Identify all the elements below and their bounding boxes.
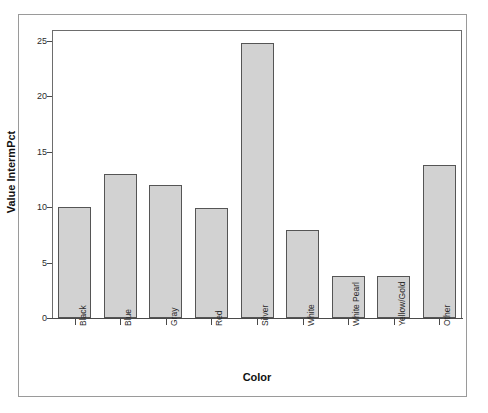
y-tick-label-wrap: 10: [0, 203, 47, 212]
y-axis-line: [52, 30, 53, 319]
bar[interactable]: [241, 43, 274, 318]
y-tick-label: 20: [19, 92, 47, 101]
x-tick-label: Silver: [261, 305, 270, 326]
x-tick-label: Yellow/Gold: [398, 281, 407, 326]
x-tick-label: Gray: [170, 308, 179, 326]
x-tick-label: White: [307, 304, 316, 326]
x-tick-mark: [211, 319, 212, 325]
y-tick-label: 15: [19, 148, 47, 157]
bar[interactable]: [195, 208, 228, 318]
y-tick-label: 5: [19, 259, 47, 268]
x-axis-title: Color: [52, 371, 462, 383]
x-tick-label: Blue: [124, 309, 133, 326]
y-tick-label: 25: [19, 37, 47, 46]
y-axis-title: Value IntermPct: [5, 92, 17, 252]
x-tick-mark: [166, 319, 167, 325]
bar[interactable]: [423, 165, 456, 318]
y-tick-label-wrap: 0: [0, 314, 47, 323]
x-tick-label: Other: [443, 305, 452, 326]
x-tick-mark: [394, 319, 395, 325]
x-tick-mark: [439, 319, 440, 325]
x-tick-mark: [75, 319, 76, 325]
x-tick-label: Red: [215, 310, 224, 326]
y-tick-label-wrap: 15: [0, 148, 47, 157]
y-tick-label: 0: [19, 314, 47, 323]
bar[interactable]: [104, 174, 137, 318]
bar[interactable]: [58, 207, 91, 318]
x-tick-mark: [120, 319, 121, 325]
y-tick-label-wrap: 25: [0, 37, 47, 46]
bar[interactable]: [149, 185, 182, 318]
x-tick-label: White Pearl: [352, 282, 361, 326]
chart-canvas: Value IntermPct 0510152025 BlackBlueGray…: [0, 0, 488, 413]
x-tick-mark: [303, 319, 304, 325]
y-tick-label-wrap: 20: [0, 92, 47, 101]
x-tick-mark: [257, 319, 258, 325]
x-tick-mark: [348, 319, 349, 325]
x-tick-label: Black: [79, 305, 88, 326]
y-tick-label: 10: [19, 203, 47, 212]
y-tick-label-wrap: 5: [0, 259, 47, 268]
